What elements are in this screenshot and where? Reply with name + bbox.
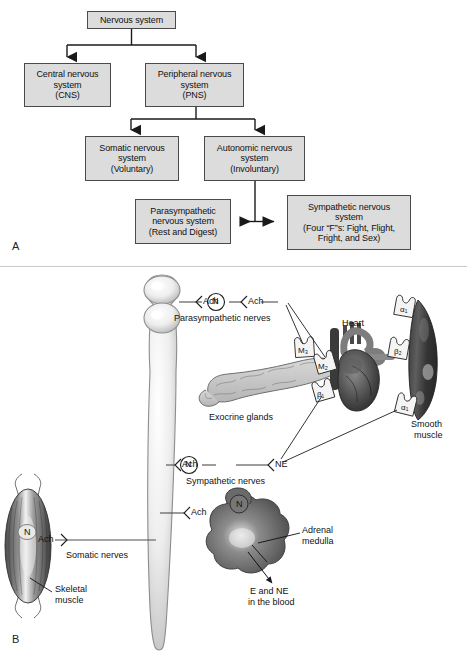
receptor-b1-label: β₁ (317, 390, 324, 401)
adrenal-medulla-label-line2: medulla (302, 536, 334, 547)
exocrine-glands-label: Exocrine glands (209, 412, 273, 423)
adrenal-transmitter-label: Ach (191, 507, 207, 518)
adrenal-receptor-label: N (236, 499, 243, 510)
adrenal-medulla-graphic (206, 488, 289, 583)
receptor-alpha1-bottom-label: α₁ (401, 403, 408, 414)
skeletal-muscle-label-line2: muscle (55, 595, 84, 606)
somatic-receptor-label: N (24, 527, 31, 538)
sympathetic-post-transmitter-label: NE (275, 459, 288, 470)
spinal-cord-graphic (144, 275, 180, 650)
somatic-transmitter-label: Ach (38, 534, 54, 545)
smooth-muscle-label-line2: muscle (414, 430, 443, 441)
receptor-alpha1-top-label: α₁ (400, 305, 407, 316)
adrenal-output-label-line1: E and NE (250, 586, 289, 597)
heart-label: Heart (342, 318, 364, 329)
heart-graphic (330, 322, 392, 411)
sympathetic-nerves-label: Sympathetic nerves (186, 476, 265, 487)
figure-root: Nervous system Central nervous system (C… (0, 0, 467, 659)
skeletal-muscle-label-line1: Skeletal (55, 584, 87, 595)
parasympathetic-post-transmitter-label: Ach (248, 296, 264, 307)
adrenal-output-label-line2: in the blood (248, 597, 295, 608)
somatic-nerves-label: Somatic nerves (66, 550, 128, 561)
smooth-muscle-label-line1: Smooth (411, 419, 442, 430)
receptor-m3-label: M₃ (298, 346, 308, 357)
receptor-beta2-label: β₂ (394, 347, 402, 358)
receptor-m2-label: M₂ (318, 362, 328, 373)
parasympathetic-ganglion-receptor-label: N (212, 296, 219, 307)
adrenal-medulla-label-line1: Adrenal (302, 525, 333, 536)
panel-b-label: B (12, 633, 19, 645)
parasympathetic-nerves-label: Parasympathetic nerves (174, 313, 271, 324)
sympathetic-ganglion-receptor-label: N (185, 459, 192, 470)
skeletal-muscle-graphic (5, 474, 52, 618)
